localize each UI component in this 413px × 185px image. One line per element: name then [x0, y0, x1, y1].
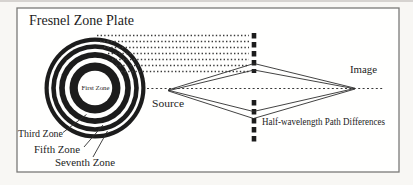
figure-canvas: Fresnel Zone Plate First Zone: [0, 0, 413, 185]
figure-title: Fresnel Zone Plate: [29, 12, 134, 28]
zone-plate: First Zone: [45, 38, 146, 139]
first-zone-label: First Zone: [82, 84, 110, 91]
third-zone-label: Third Zone: [18, 127, 63, 139]
source-label: Source: [152, 97, 184, 109]
image-label: Image: [350, 63, 377, 75]
path-difference-label: Half-wavelength Path Differences: [262, 115, 385, 127]
fifth-zone-label: Fifth Zone: [34, 143, 80, 155]
seventh-zone-label: Seventh Zone: [55, 156, 115, 168]
fresnel-diagram: Fresnel Zone Plate First Zone: [0, 0, 413, 185]
